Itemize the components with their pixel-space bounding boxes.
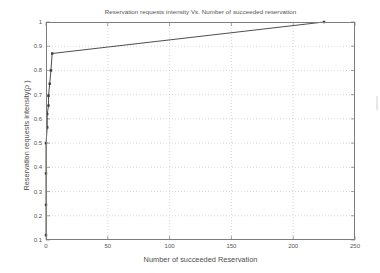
x-tick-250: 250 (350, 243, 360, 249)
x-tick-100: 100 (165, 243, 175, 249)
y-tick-1: 1 (18, 19, 42, 25)
y-axis-label: Reservation requests intensity(ρ ) (22, 36, 31, 236)
x-axis-label: Number of succeeded Reservation (46, 255, 355, 264)
x-tick-0: 0 (44, 243, 47, 249)
chart-title: Reservation requests intensity Vs. Numbe… (46, 8, 355, 15)
y-tick-0.1: 0.1 (18, 237, 42, 243)
plot-area (46, 22, 355, 240)
scan-artifact (376, 96, 378, 110)
x-tick-50: 50 (104, 243, 111, 249)
x-tick-150: 150 (226, 243, 236, 249)
x-tick-200: 200 (288, 243, 298, 249)
plot-frame (46, 22, 355, 240)
figure-canvas: Reservation requests intensity Vs. Numbe… (0, 0, 380, 273)
